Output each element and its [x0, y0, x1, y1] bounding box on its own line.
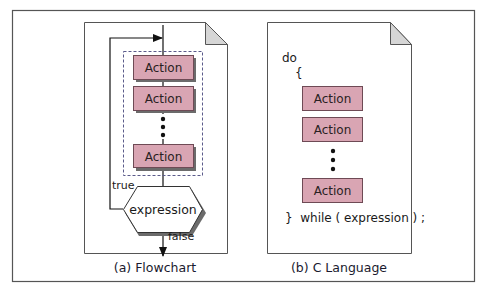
while-clause: } while ( expression ) ; — [285, 211, 425, 225]
ellipsis-dot — [331, 158, 335, 162]
ellipsis-dot — [161, 125, 165, 129]
page-folded-corner — [391, 23, 412, 45]
flowchart-action-1: Action — [134, 56, 197, 83]
action-label: Action — [145, 61, 183, 75]
open-brace: { — [295, 66, 303, 80]
c-language-caption: (b) C Language — [291, 260, 387, 275]
code-action-1: Action — [303, 87, 363, 111]
decision-label: expression — [129, 202, 196, 217]
action-label: Action — [145, 92, 183, 106]
false-label: false — [168, 230, 194, 243]
flowchart-action-3: Action — [134, 145, 197, 172]
action-label: Action — [314, 184, 352, 198]
ellipsis-dot — [161, 117, 165, 121]
do-while-diagram: Action Action Action expression true fal… — [0, 0, 485, 290]
decision-expression: expression — [124, 187, 207, 237]
do-keyword: do — [282, 51, 297, 65]
flowchart-panel: Action Action Action expression true fal… — [85, 23, 228, 276]
action-label: Action — [145, 150, 183, 164]
ellipsis-dot — [161, 133, 165, 137]
page-folded-corner — [206, 23, 228, 45]
flowchart-action-2: Action — [134, 87, 197, 114]
ellipsis-dot — [331, 149, 335, 153]
action-label: Action — [314, 92, 352, 106]
true-label: true — [112, 179, 135, 192]
code-action-3: Action — [303, 179, 363, 203]
ellipsis-dot — [331, 167, 335, 171]
action-label: Action — [314, 123, 352, 137]
code-action-2: Action — [303, 118, 363, 142]
c-language-panel: do { Action Action Action } while ( expr… — [268, 23, 426, 276]
flowchart-caption: (a) Flowchart — [114, 260, 197, 275]
